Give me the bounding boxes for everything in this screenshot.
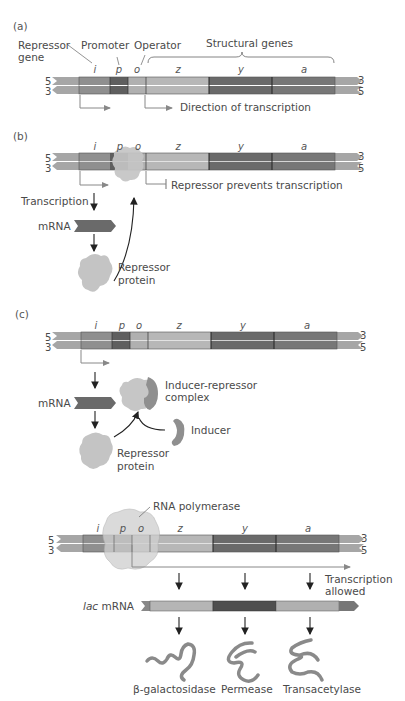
strand-5-right-label: 5 — [361, 545, 367, 556]
rna-polymerase-icon — [103, 509, 160, 569]
transcription-allowed-label-line2: allowed — [325, 586, 365, 597]
transcription-label: Transcription — [21, 196, 89, 207]
lac-mrna-label: lac mRNA — [83, 601, 134, 612]
gene-label-p: p — [116, 320, 128, 331]
strand-5-right-label: 5 — [358, 86, 364, 97]
gene-label-z: z — [172, 64, 184, 75]
rna-polymerase-label: RNA polymerase — [153, 501, 240, 512]
panel-label-b: (b) — [13, 130, 28, 142]
enzyme-label-transacetylase: Transacetylase — [283, 684, 361, 695]
strand-3-label: 3 — [45, 163, 51, 174]
gene-label-a: a — [302, 523, 314, 534]
enzyme-label-beta-galactosidase: β-galactosidase — [133, 684, 216, 695]
gene-label-p: p — [114, 141, 126, 152]
gene-label-o: o — [135, 523, 147, 534]
strand-3-right-label: 3 — [358, 75, 364, 86]
strand-3-right-label: 3 — [361, 533, 367, 544]
gene-label-p: p — [113, 64, 125, 75]
repressor-protein-label-b-line1: Repressor — [118, 262, 170, 273]
gene-label-o: o — [133, 320, 145, 331]
repressor-protein-c-icon — [79, 433, 113, 470]
lac-label: lac — [83, 600, 98, 612]
gene-label-o: o — [131, 64, 143, 75]
strand-5-right-label: 5 — [358, 163, 364, 174]
dna-panel-b — [52, 146, 362, 291]
gene-label-z: z — [172, 141, 184, 152]
gene-label-y: y — [237, 320, 249, 331]
structural-genes-label: Structural genes — [206, 38, 293, 49]
transacetylase-icon — [290, 640, 322, 680]
repressor-protein-b-icon — [78, 254, 113, 292]
operator-label: Operator — [134, 40, 181, 51]
mrna-label-d: mRNA — [101, 600, 134, 612]
panel-label-a: (a) — [13, 20, 28, 32]
gene-label-z: z — [174, 523, 186, 534]
repressor-protein-label-c-line1: Repressor — [117, 448, 169, 459]
gene-label-a: a — [298, 64, 310, 75]
gene-label-i: i — [92, 523, 104, 534]
enzyme-label-permease: Permease — [221, 684, 273, 695]
gene-label-z: z — [173, 320, 185, 331]
repressor-gene-label-line1: Repressor — [18, 40, 70, 51]
gene-label-y: y — [239, 523, 251, 534]
repressor-gene-label-line2: gene — [18, 52, 44, 63]
gene-label-i: i — [90, 320, 102, 331]
mrna-c-icon — [74, 397, 116, 409]
gene-label-o: o — [132, 141, 144, 152]
repressor-protein-label-c-line2: protein — [117, 461, 154, 472]
inducer-icon — [172, 419, 185, 446]
complex-label-line2: complex — [165, 392, 210, 403]
strand-3-label: 3 — [45, 86, 51, 97]
strand-5-right-label: 5 — [360, 342, 366, 353]
permease-icon — [228, 643, 258, 681]
gene-label-i: i — [89, 141, 101, 152]
repressor-prevents-label: Repressor prevents transcription — [171, 180, 343, 191]
complex-label-line1: Inducer-repressor — [165, 380, 257, 391]
gene-label-i: i — [89, 64, 101, 75]
direction-of-transcription-label: Direction of transcription — [180, 102, 311, 113]
promoter-label: Promoter — [81, 40, 129, 51]
transcription-allowed-label-line1: Transcription — [325, 574, 393, 585]
gene-label-a: a — [301, 320, 313, 331]
strand-3-right-label: 3 — [360, 330, 366, 341]
panel-label-c: (c) — [15, 308, 29, 320]
beta-galactosidase-icon — [147, 644, 194, 680]
dna-panel-a — [52, 45, 362, 108]
mrna-b-icon — [74, 220, 116, 232]
strand-3-label: 3 — [45, 342, 51, 353]
strand-3-label: 3 — [48, 545, 54, 556]
gene-label-p: p — [117, 523, 129, 534]
gene-label-y: y — [235, 141, 247, 152]
inducer-label: Inducer — [191, 425, 231, 436]
gene-label-y: y — [235, 64, 247, 75]
mrna-label-c: mRNA — [38, 398, 71, 409]
gene-label-a: a — [298, 141, 310, 152]
strand-3-right-label: 3 — [358, 151, 364, 162]
mrna-label-b: mRNA — [38, 221, 71, 232]
repressor-protein-label-b-line2: protein — [118, 275, 155, 286]
